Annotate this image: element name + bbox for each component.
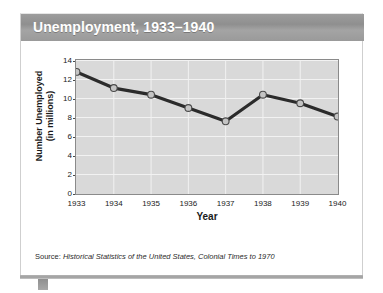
- bottom-rail: [20, 275, 363, 279]
- y-tick-label: 14: [63, 56, 72, 65]
- x-tick-label: 1938: [254, 199, 272, 208]
- plot-area: [75, 59, 339, 195]
- x-tick-label: 1936: [179, 199, 197, 208]
- source-citation: Historical Statistics of the United Stat…: [63, 252, 275, 261]
- chart-title-bar: Unemployment, 1933–1940: [21, 14, 364, 41]
- y-tick-label: 2: [68, 170, 72, 179]
- y-tick-label: 10: [63, 94, 72, 103]
- x-tick-label: 1933: [68, 199, 86, 208]
- figure-card: Unemployment, 1933–1940 Number Unemploye…: [20, 13, 363, 275]
- x-tick-label: 1937: [217, 199, 235, 208]
- source-label: Source:: [35, 252, 63, 261]
- source-note: Source: Historical Statistics of the Uni…: [35, 252, 275, 261]
- x-tick-label: 1940: [329, 199, 347, 208]
- x-axis-title: Year: [75, 211, 339, 222]
- series-unemployment: [76, 60, 338, 194]
- x-tick-label: 1934: [105, 199, 123, 208]
- y-tick-label: 6: [68, 132, 72, 141]
- bottom-tab: [38, 279, 48, 290]
- x-tick-label: 1939: [291, 199, 309, 208]
- y-tick-label: 4: [68, 151, 72, 160]
- y-axis-ticks: 02468101214: [51, 59, 72, 195]
- x-tick-label: 1935: [142, 199, 160, 208]
- chart-title: Unemployment, 1933–1940: [33, 19, 214, 35]
- chart-region: Number Unemployed (in millions) 02468101…: [21, 41, 364, 247]
- x-axis-ticks: 19331934193519361937193819391940: [75, 197, 339, 211]
- y-axis-title-line1: Number Unemployed: [34, 71, 44, 162]
- y-tick-label: 12: [63, 75, 72, 84]
- y-tick-label: 0: [68, 189, 72, 198]
- y-tick-label: 8: [68, 113, 72, 122]
